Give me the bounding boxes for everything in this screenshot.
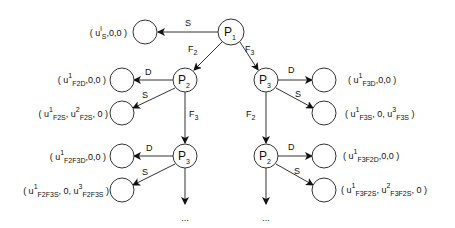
leaf-f2f3d [110,144,134,168]
edge-label-p1-s: S [185,18,191,28]
payoff-f2f3d: ( u1F2F3D,0,0 ) [50,149,106,164]
leaf-f3s [312,101,336,125]
payoff-f3f2d: ( u1F3F2D,0,0 ) [343,148,399,163]
edge-label-p1-f2: F2 [188,44,198,56]
edge-label-p2r-s: S [294,166,300,176]
leaf-f2s [110,101,134,125]
continuation-right: ... [262,213,270,223]
edge-p1-f2 [194,42,222,70]
payoff-f3f2s: ( u1F3F2S, u2F3F2S, 0 ) [341,182,427,197]
payoff-f3d: ( u1F3D,0,0 ) [348,72,396,87]
edge-label-p3-d: D [288,65,295,75]
leaf-f2f3s [110,178,134,202]
leaf-f3f2s [312,178,336,202]
payoff-f2f3s: ( u1F2F3S, 0, u3F2F3S ) [23,183,109,198]
edge-label-p2-s: S [142,90,148,100]
payoff-f2d: ( u1F2D,0,0 ) [58,72,106,87]
leaf-f3d [312,68,336,92]
payoff-f3s: ( u1F3S, 0, u3F3S ) [345,106,415,121]
edge-p2-s [133,88,175,108]
payoff-f2s: ( u1F2S, u2F2S, 0 ) [38,106,108,121]
leaf-f3f2d [312,144,336,168]
edge-label-p3l-d: D [146,143,153,153]
payoff-s: ( ulS,0,0 ) [90,25,127,40]
edge-label-p3l-s: S [142,167,148,177]
edge-p3l-s [133,164,175,185]
edge-label-p2-f3: F3 [189,109,199,121]
edge-label-p2-d: D [145,67,152,77]
edge-label-p1-f3: F3 [245,44,255,56]
edge-label-p3-f2: F2 [246,109,256,121]
edge-label-p3-s: S [295,89,301,99]
continuation-left: ... [181,213,189,223]
decision-tree-diagram: P1 P2 P3 P3 P2 S F2 F3 D S F3 D S F2 D S… [0,0,455,228]
leaf-s [133,20,157,44]
leaf-f2d [110,68,134,92]
edge-label-p2r-d: D [288,142,295,152]
